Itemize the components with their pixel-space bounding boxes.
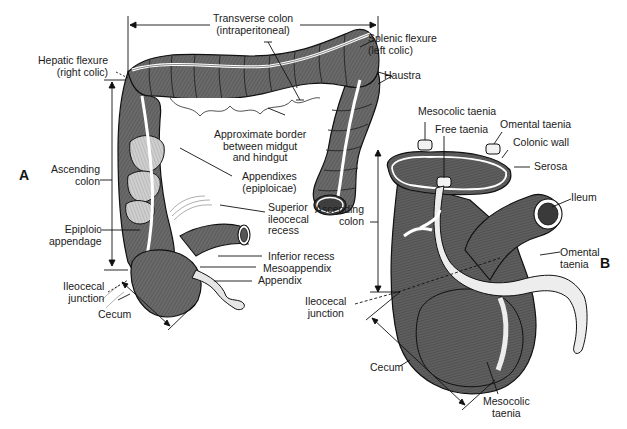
label-ileocecal-junction-b: Ileocecal junction	[305, 296, 346, 319]
label-cecum-a: Cecum	[98, 309, 131, 321]
panel-a-drawing	[102, 29, 380, 316]
label-hepatic-flexure: Hepatic flexure (right colic)	[38, 55, 108, 78]
label-ileum: Ileum	[571, 192, 597, 204]
label-ascending-colon-a: Ascending colon	[51, 164, 100, 187]
label-colonic-wall: Colonic wall	[513, 137, 569, 149]
panel-letter-a: A	[19, 167, 29, 183]
label-haustra: Haustra	[384, 70, 421, 82]
label-superior-ileocecal-recess: Superior ileocecal recess	[268, 202, 309, 237]
label-mesocolic-taenia-top: Mesocolic taenia	[418, 106, 496, 118]
anatomy-figure: A B Transverse colon (intraperitoneal) H…	[0, 0, 627, 429]
label-omental-taenia-top: Omental taenia	[500, 119, 571, 131]
label-mesocolic-taenia-bottom: Mesocolic taenia	[483, 396, 530, 419]
label-appendixes: Appendixes (epiploicae)	[242, 171, 297, 194]
panel-b-drawing	[387, 140, 587, 394]
label-epiploic-appendage: Epiploic appendage	[49, 224, 102, 247]
label-approx-border: Approximate border between midgut and hi…	[214, 129, 306, 164]
label-ileocecal-junction-a: Ileocecal junction	[63, 281, 104, 304]
label-inferior-recess: Inferior recess	[268, 251, 335, 263]
label-free-taenia: Free taenia	[435, 124, 488, 136]
label-ascending-colon-b: Ascending colon	[315, 204, 364, 227]
label-transverse-colon: Transverse colon (intraperitoneal)	[213, 13, 293, 36]
label-cecum-b: Cecum	[370, 362, 403, 374]
label-serosa: Serosa	[534, 161, 567, 173]
label-splenic-flexure: Splenic flexure (left colic)	[368, 33, 437, 56]
panel-letter-b: B	[600, 255, 610, 271]
label-omental-taenia: Omental taenia	[560, 247, 600, 270]
label-appendix: Appendix	[258, 275, 302, 287]
label-mesoappendix: Mesoappendix	[263, 263, 331, 275]
